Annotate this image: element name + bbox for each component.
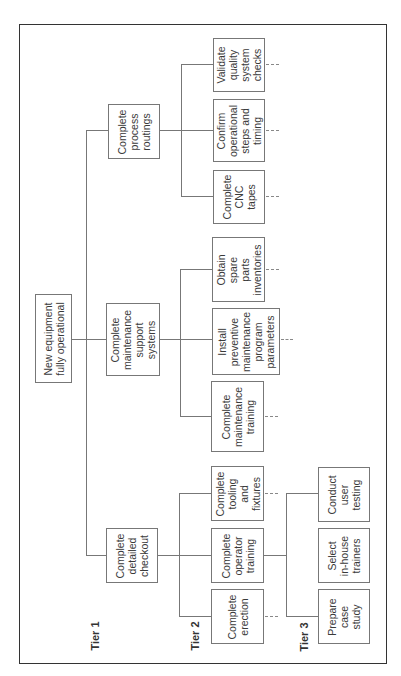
dashed-continuation — [266, 64, 279, 66]
tier-2-label: Tier 2 — [189, 621, 201, 650]
node-detailed-checkout: Complete detailed checkout — [106, 528, 158, 583]
connector — [86, 555, 106, 556]
node-label: New equipment fully operational — [42, 302, 66, 376]
node-maintenance-support: Complete maintenance support systems — [106, 303, 160, 376]
node-label: Install preventive maintenance program p… — [216, 311, 276, 371]
connector-bus — [179, 493, 180, 617]
connector — [180, 269, 212, 270]
connector — [179, 493, 211, 494]
node-in-house-trainers: Select in-house trainers — [318, 528, 370, 583]
node-cnc-tapes: Complete CNC tapes — [213, 170, 265, 224]
connector — [181, 196, 213, 197]
connector — [86, 130, 108, 131]
dashed-continuation — [266, 130, 279, 132]
root-node: New equipment fully operational — [35, 294, 72, 383]
node-label: Complete process routings — [116, 109, 152, 154]
node-spare-parts: Obtain spare parts inventories — [212, 237, 265, 302]
node-label: Conduct user testing — [326, 475, 362, 514]
dashed-continuation — [265, 616, 278, 618]
connector-bus — [286, 493, 287, 617]
connector — [286, 616, 318, 617]
node-preventive-maintenance: Install preventive maintenance program p… — [212, 308, 280, 375]
node-process-routings: Complete process routings — [108, 104, 160, 159]
connector — [180, 416, 211, 417]
node-user-testing: Conduct user testing — [318, 467, 370, 522]
connector-bus — [181, 64, 182, 197]
connector — [160, 339, 212, 340]
node-label: Complete tooling and fixtures — [214, 471, 262, 516]
node-label: Confirm operational steps and timing — [215, 105, 263, 157]
tier-3-label: Tier 3 — [298, 622, 310, 651]
connector — [179, 616, 211, 617]
connector — [72, 339, 106, 340]
dashed-continuation — [281, 339, 293, 341]
node-erection: Complete erection — [211, 589, 264, 644]
node-label: Complete operator training — [220, 533, 256, 578]
node-maintenance-training: Complete maintenance training — [211, 381, 264, 452]
node-label: Complete CNC tapes — [221, 175, 257, 220]
connector — [160, 130, 213, 131]
node-operational-steps: Confirm operational steps and timing — [213, 99, 265, 162]
dashed-continuation — [266, 196, 279, 198]
dashed-continuation — [266, 269, 279, 271]
connector — [286, 493, 318, 494]
node-label: Complete maintenance support systems — [109, 309, 157, 369]
node-operator-training: Complete operator training — [211, 528, 264, 583]
node-label: Complete erection — [226, 594, 250, 639]
connector — [158, 555, 211, 556]
node-label: Obtain spare parts inventories — [215, 244, 263, 295]
node-case-study: Prepare case study — [318, 589, 370, 644]
dashed-continuation — [265, 493, 278, 495]
tier-1-label: Tier 1 — [89, 621, 101, 650]
connector-bus — [180, 269, 181, 417]
dashed-continuation — [265, 416, 278, 418]
node-label: Prepare case study — [326, 598, 362, 635]
connector — [181, 64, 213, 65]
node-quality-checks: Validate quality system checks — [213, 38, 265, 92]
node-tooling-fixtures: Complete tooling and fixtures — [211, 466, 264, 521]
node-label: Complete detailed checkout — [114, 533, 150, 578]
connector — [264, 555, 286, 556]
connector-spine — [86, 130, 87, 556]
node-label: Select in-house trainers — [326, 535, 362, 575]
node-label: Complete maintenance training — [220, 386, 256, 446]
node-label: Validate quality system checks — [215, 46, 263, 83]
